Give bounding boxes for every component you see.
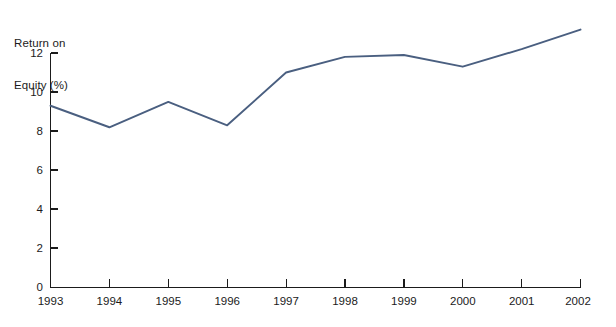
y-tick-label-6: 6 <box>37 164 43 176</box>
y-tick-marks <box>51 53 59 248</box>
x-tick-labels: 1993 1994 1995 1996 1997 1998 1999 2000 … <box>38 295 591 307</box>
y-tick-label-8: 8 <box>37 125 43 137</box>
y-tick-label-0: 0 <box>37 281 43 293</box>
y-tick-label-12: 12 <box>30 47 43 59</box>
x-tick-label-1999: 1999 <box>391 295 417 307</box>
y-tick-label-4: 4 <box>37 203 44 215</box>
y-tick-label-2: 2 <box>37 242 43 254</box>
data-series-line <box>51 30 581 128</box>
chart-container: Return on Equity (%) 12 10 8 6 4 2 0 <box>0 0 616 327</box>
x-tick-label-2002: 2002 <box>565 295 591 307</box>
x-tick-marks <box>109 279 580 288</box>
x-tick-label-2000: 2000 <box>450 295 476 307</box>
y-tick-label-10: 10 <box>30 86 43 98</box>
line-chart-plot: 12 10 8 6 4 2 0 1993 1994 1995 1996 199 <box>0 0 616 327</box>
x-tick-label-1997: 1997 <box>273 295 299 307</box>
x-tick-label-1993: 1993 <box>38 295 64 307</box>
x-tick-label-1994: 1994 <box>97 295 123 307</box>
x-tick-label-1996: 1996 <box>214 295 240 307</box>
x-tick-label-2001: 2001 <box>509 295 535 307</box>
x-tick-label-1995: 1995 <box>156 295 182 307</box>
y-tick-labels: 12 10 8 6 4 2 0 <box>30 47 43 293</box>
x-tick-label-1998: 1998 <box>332 295 358 307</box>
